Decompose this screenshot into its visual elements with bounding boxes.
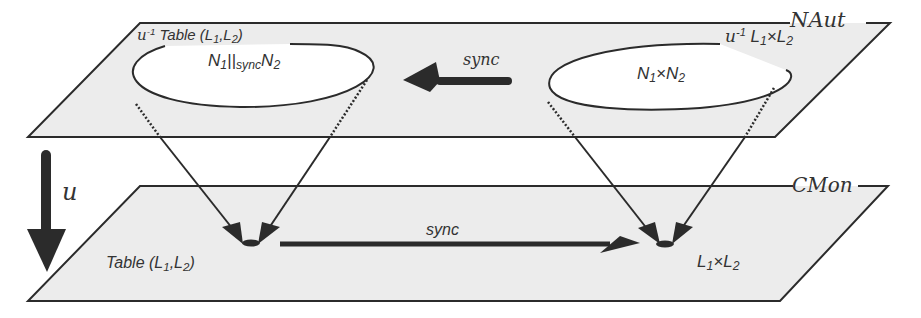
left-region-content: N1||syncN2	[208, 52, 280, 71]
diagram-canvas: NAut CMon u-1 Table (L1,L2) N1||syncN2 u…	[0, 0, 921, 318]
content-text: ×N	[656, 64, 678, 83]
functor-arrowhead	[27, 229, 66, 272]
label-text: ,L	[170, 254, 183, 271]
upper-plane-name-text: NAut	[790, 8, 846, 32]
left-point-dot	[242, 240, 260, 247]
label-text: )	[189, 254, 194, 271]
label-text: ×L	[713, 252, 732, 271]
parallel-operator: ||	[227, 51, 236, 70]
upper-sync-label: sync	[463, 52, 500, 68]
right-region-content: N1×N2	[637, 65, 685, 84]
subscript: 2	[678, 71, 685, 85]
upper-plane-name: NAut	[790, 10, 846, 31]
content-text: N	[208, 51, 220, 70]
inverse-superscript: -1	[736, 26, 746, 38]
functor-symbol: u	[725, 26, 736, 46]
label-text: L	[746, 27, 760, 46]
label-text: Table (L	[155, 26, 213, 43]
functor-label-text: u	[62, 178, 77, 206]
lower-plane-name-text: CMon	[792, 173, 853, 197]
label-text: ×L	[767, 27, 786, 46]
content-text: N	[637, 64, 649, 83]
subscript: 2	[273, 58, 280, 72]
functor-label: u	[62, 180, 77, 204]
label-text: Table (L	[106, 254, 163, 271]
right-region-label: u-1 L1×L2	[725, 27, 793, 47]
left-point-label: Table (L1,L2)	[106, 255, 195, 273]
upper-sync-label-text: sync	[463, 50, 500, 69]
lower-sync-label: sync	[426, 222, 459, 238]
content-text: N	[261, 51, 273, 70]
functor-symbol: u	[137, 26, 147, 44]
label-text: ,L	[219, 26, 232, 43]
right-point-dot	[656, 241, 674, 248]
subscript: 1	[760, 34, 767, 48]
subscript: 2	[786, 34, 793, 48]
subscript: 2	[733, 259, 740, 273]
subscript: sync	[236, 58, 261, 72]
right-point-label: L1×L2	[697, 253, 739, 272]
label-text: )	[238, 26, 243, 43]
left-region-label: u-1 Table (L1,L2)	[137, 27, 243, 44]
lower-plane-name: CMon	[792, 175, 853, 195]
lower-sync-label-text: sync	[426, 221, 459, 238]
